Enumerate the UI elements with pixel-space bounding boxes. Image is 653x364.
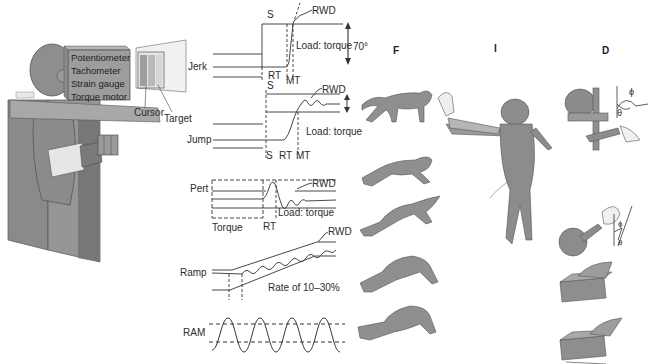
target-label: Target	[164, 113, 192, 124]
jerk-rwd-label: RWD	[312, 5, 336, 16]
jump-rt-marker: RT	[279, 150, 292, 161]
theta-symbol: θ	[617, 108, 622, 119]
panel-d-letter: D	[602, 45, 609, 56]
phi-symbol: ϕ	[629, 87, 634, 98]
panel-i-illustration	[438, 92, 552, 244]
pert-rwd-label: RWD	[312, 178, 336, 189]
jerk-label: Jerk	[188, 61, 207, 72]
jerk-amplitude-label: 70°	[353, 41, 368, 52]
ramp-rate-label: Rate of 10–30%	[268, 282, 340, 293]
jump-s-marker-top: S	[267, 80, 274, 91]
panel-f-illustrations	[358, 91, 440, 340]
torque-label: Torque	[212, 222, 243, 233]
jump-trace	[213, 88, 350, 158]
pert-rt-marker: RT	[263, 221, 276, 232]
jump-label: Jump	[187, 134, 211, 145]
cursor-label: Cursor	[134, 107, 164, 118]
jump-load-label: Load: torque	[306, 126, 362, 137]
panel-i-letter: I	[494, 43, 497, 54]
phi-symbol-2: ϕ	[618, 218, 622, 229]
ram-trace	[209, 318, 345, 352]
jerk-mt-marker: MT	[286, 75, 300, 86]
pert-label: Pert	[190, 183, 208, 194]
jump-mt-marker: MT	[296, 150, 310, 161]
tachometer-label: Tachometer	[71, 64, 121, 77]
panel-d-illustrations	[559, 86, 648, 364]
jump-rwd-label: RWD	[322, 84, 346, 95]
torque-motor-label: Torque motor	[71, 90, 127, 103]
pert-load-label: Load: torque	[278, 207, 334, 218]
jerk-s-marker: S	[267, 9, 274, 20]
potentiometer-label: Potentiometer	[71, 51, 130, 64]
panel-f-letter: F	[393, 45, 399, 56]
ram-label: RAM	[183, 327, 205, 338]
ramp-label: Ramp	[180, 267, 207, 278]
ramp-rwd-label: RWD	[328, 226, 352, 237]
jump-s-marker-bottom: S	[266, 150, 273, 161]
theta-symbol-2: θ	[618, 237, 622, 248]
strain-gauge-label: Strain gauge	[71, 77, 125, 90]
jerk-load-label: Load: torque	[296, 40, 352, 51]
